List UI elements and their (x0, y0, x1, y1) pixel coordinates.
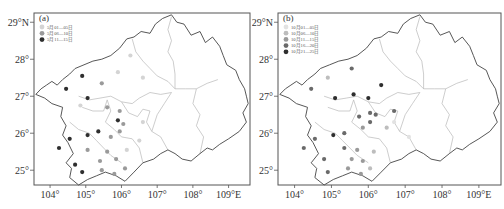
station-point (313, 137, 317, 141)
prefecture-boundary (400, 93, 420, 132)
legend-label: 5月06—10日 (47, 31, 73, 37)
panel-label: (a) (39, 13, 49, 23)
station-point (326, 76, 330, 80)
legend-marker (284, 25, 289, 30)
station-point (350, 66, 354, 70)
station-point (350, 157, 354, 161)
station-point (73, 163, 77, 167)
station-point (96, 129, 100, 133)
station-point (342, 131, 346, 135)
station-point (123, 166, 127, 170)
station-point (368, 166, 372, 170)
legend-label: 10月16—20日 (291, 43, 319, 49)
prefecture-boundary (315, 122, 368, 163)
station-point (361, 126, 365, 130)
station-point (374, 113, 378, 117)
x-tick-label: 104° (285, 189, 304, 200)
station-point (302, 146, 306, 150)
y-tick-label: 28° (15, 54, 29, 65)
y-tick-label: 26° (15, 128, 29, 139)
station-point (309, 87, 313, 91)
map-panel-b: 104°105°106°107°108°109°E25°26°27°28°29°… (252, 0, 504, 209)
station-point (86, 148, 90, 152)
station-point (359, 172, 363, 176)
legend-label: 10月21—25日 (291, 49, 319, 55)
x-tick-label: 106° (359, 189, 378, 200)
prefecture-boundary (82, 100, 107, 111)
station-point (368, 120, 372, 124)
station-point (366, 96, 370, 100)
station-point (368, 111, 372, 115)
station-point (100, 168, 104, 172)
y-tick-label: 25° (259, 165, 273, 176)
x-tick-label: 106° (112, 189, 131, 200)
y-tick-label: 28° (259, 54, 273, 65)
legend-marker (284, 43, 289, 48)
station-point (57, 146, 61, 150)
x-tick-label: 109°E (216, 189, 241, 200)
station-point (78, 103, 82, 107)
station-point (112, 172, 116, 176)
x-tick-label: 108° (183, 189, 202, 200)
legend-label: 10月06—10日 (291, 31, 319, 37)
station-point (141, 120, 145, 124)
prefecture-boundary (168, 17, 175, 89)
prefecture-boundary (442, 89, 453, 154)
legend-marker (40, 25, 45, 30)
station-point (64, 87, 68, 91)
station-point (385, 126, 389, 130)
station-point (355, 148, 359, 152)
x-tick-label: 105° (76, 189, 95, 200)
station-point (80, 170, 84, 174)
station-point (98, 159, 102, 163)
panel-label: (b) (283, 13, 294, 23)
map-svg-a: 104°105°106°107°108°109°E25°26°27°28°29°… (0, 0, 252, 209)
station-point (331, 133, 335, 137)
x-tick-label: 107° (148, 189, 167, 200)
station-point (116, 118, 120, 122)
station-point (361, 159, 365, 163)
station-point (407, 135, 411, 139)
station-point (342, 146, 346, 150)
station-point (114, 157, 118, 161)
station-point (100, 81, 104, 85)
station-point (105, 105, 109, 109)
station-point (118, 109, 122, 113)
station-point (352, 92, 356, 96)
legend-label: 10月11—15日 (291, 37, 319, 43)
station-point (137, 139, 141, 143)
x-tick-label: 107° (396, 189, 415, 200)
y-tick-label: 25° (15, 165, 29, 176)
prefecture-boundary (416, 17, 423, 89)
prefecture-boundary (352, 100, 391, 163)
station-point (346, 166, 350, 170)
legend-label: 5月11—15日 (47, 37, 73, 43)
station-point (372, 150, 376, 154)
station-point (322, 157, 326, 161)
y-tick-label: 29°N (252, 17, 273, 28)
legend-label: 5月01—05日 (47, 25, 73, 31)
map-panel-a: 104°105°106°107°108°109°E25°26°27°28°29°… (0, 0, 252, 209)
x-tick-label: 108° (433, 189, 452, 200)
legend-marker (284, 31, 289, 36)
station-point (105, 150, 109, 154)
prefecture-boundary (152, 93, 172, 132)
station-point (128, 53, 132, 57)
station-point (86, 96, 90, 100)
station-point (326, 170, 330, 174)
y-tick-label: 27° (259, 91, 273, 102)
legend-marker (40, 31, 45, 36)
station-point (116, 70, 120, 74)
x-tick-label: 109°E (466, 189, 491, 200)
station-point (333, 96, 337, 100)
y-tick-label: 29°N (8, 17, 29, 28)
station-point (379, 83, 383, 87)
station-point (68, 137, 72, 141)
prefecture-boundary (70, 122, 122, 163)
x-tick-label: 104° (41, 189, 60, 200)
station-point (86, 133, 90, 137)
station-point (121, 122, 125, 126)
prefecture-boundary (193, 89, 204, 154)
station-point (125, 148, 129, 152)
x-tick-label: 105° (322, 189, 341, 200)
